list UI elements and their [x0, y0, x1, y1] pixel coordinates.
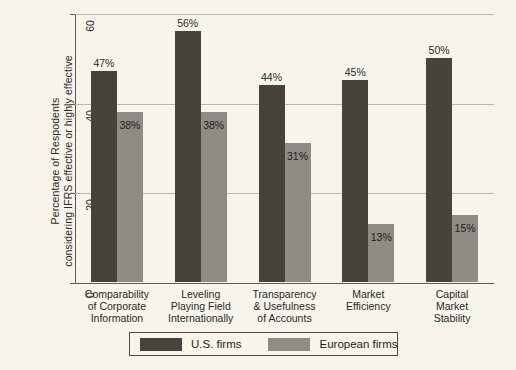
chart-legend: U.S. firms European firms — [129, 332, 398, 356]
x-axis-label-5: Capital Market Stability — [410, 289, 494, 324]
bar-value-label-european-firms-3: 31% — [278, 150, 318, 162]
y-axis-title: Percentage of Respodents considering IFR… — [49, 16, 75, 306]
legend-item-european-firms: European firms — [268, 338, 397, 351]
y-tick-mark-0 — [70, 283, 75, 284]
bar-us-firms-2 — [175, 31, 201, 282]
legend-label-european-firms: European firms — [319, 338, 397, 350]
gridline-60 — [75, 14, 494, 15]
bar-value-label-us-firms-5: 50% — [419, 44, 459, 56]
plot-area: 0204060 47%38%56%38%44%31%45%13%50%15% — [75, 14, 494, 283]
x-axis-label-1: Comparability of Corporate Information — [75, 289, 159, 324]
y-axis-line — [75, 14, 76, 284]
bar-us-firms-4 — [342, 80, 368, 282]
x-axis-label-4: Market Efficiency — [326, 289, 410, 313]
legend-swatch-european-firms — [268, 338, 310, 351]
legend-label-us-firms: U.S. firms — [191, 338, 241, 350]
bar-us-firms-1 — [91, 71, 117, 282]
bar-value-label-european-firms-1: 38% — [110, 119, 150, 131]
bar-value-label-us-firms-2: 56% — [168, 17, 208, 29]
bar-value-label-european-firms-4: 13% — [361, 231, 401, 243]
bar-value-label-us-firms-1: 47% — [84, 57, 124, 69]
bar-value-label-us-firms-4: 45% — [335, 66, 375, 78]
bar-chart: Percentage of Respodents considering IFR… — [0, 0, 516, 370]
legend-swatch-us-firms — [140, 338, 182, 351]
bar-european-firms-3 — [285, 143, 311, 282]
y-tick-mark-40 — [70, 104, 75, 105]
bar-us-firms-5 — [426, 58, 452, 282]
bar-value-label-us-firms-3: 44% — [252, 71, 292, 83]
x-axis-label-3: Transparency & Usefulness of Accounts — [243, 289, 327, 324]
y-tick-mark-60 — [70, 14, 75, 15]
bar-value-label-european-firms-5: 15% — [445, 222, 485, 234]
y-tick-mark-20 — [70, 193, 75, 194]
bar-european-firms-2 — [201, 112, 227, 282]
bar-value-label-european-firms-2: 38% — [194, 119, 234, 131]
bar-us-firms-3 — [259, 85, 285, 282]
bar-european-firms-1 — [117, 112, 143, 282]
legend-item-us-firms: U.S. firms — [140, 338, 241, 351]
x-axis-line — [75, 283, 494, 284]
y-tick-label-60: 60 — [84, 14, 96, 38]
x-axis-label-2: Leveling Playing Field Internationally — [159, 289, 243, 324]
